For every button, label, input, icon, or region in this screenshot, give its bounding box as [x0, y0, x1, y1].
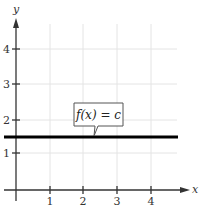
- y-tick-1: 1: [3, 147, 10, 160]
- x-tick-3: 3: [114, 195, 121, 208]
- chart: 1 2 3 4 1 2 3 4 x y f(x) = c: [0, 0, 199, 210]
- y-axis: [12, 18, 20, 201]
- callout-label: f(x) = c: [75, 108, 121, 122]
- x-tick-4: 4: [148, 195, 155, 208]
- x-arrow-icon: [180, 187, 190, 193]
- x-tick-2: 2: [80, 195, 87, 208]
- y-tick-3: 3: [3, 78, 10, 91]
- x-axis-label: x: [192, 183, 199, 196]
- x-axis: [4, 186, 190, 194]
- callout: f(x) = c: [74, 103, 123, 136]
- y-axis-label: y: [12, 3, 20, 16]
- y-tick-2: 2: [3, 114, 10, 127]
- y-tick-4: 4: [3, 43, 10, 56]
- y-arrow-icon: [13, 18, 19, 28]
- x-tick-1: 1: [47, 195, 54, 208]
